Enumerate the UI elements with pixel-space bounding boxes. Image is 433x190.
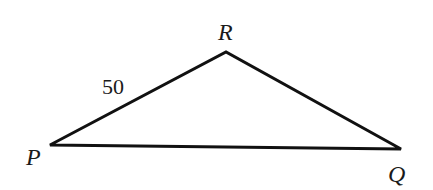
triangle-PQR bbox=[50, 52, 401, 149]
triangle-diagram: R P Q 50 bbox=[0, 0, 433, 190]
diagram-svg: R P Q 50 bbox=[0, 0, 433, 190]
vertex-label-q: Q bbox=[388, 161, 405, 187]
side-label-pr: 50 bbox=[102, 74, 124, 99]
vertex-label-r: R bbox=[217, 19, 233, 45]
vertex-label-p: P bbox=[25, 144, 41, 170]
